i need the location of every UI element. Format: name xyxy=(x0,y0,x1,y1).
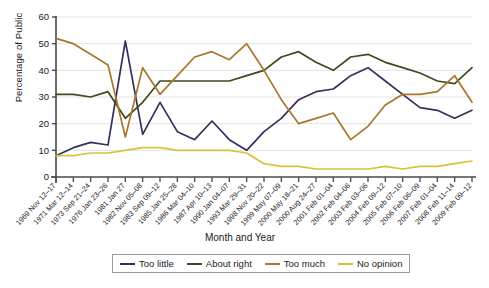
y-axis-tick-label: 20 xyxy=(38,118,49,129)
y-axis-tick-label: 60 xyxy=(38,11,49,22)
legend-item-label: Too little xyxy=(139,259,174,269)
series-line-no-opinion xyxy=(56,148,472,169)
x-axis-title: Month and Year xyxy=(150,232,330,243)
legend-item-label: About right xyxy=(206,259,252,269)
legend-item-label: Too much xyxy=(284,259,325,269)
legend-swatch-icon xyxy=(338,263,353,265)
y-axis-tick-label: 40 xyxy=(38,65,49,76)
chart-plot-area: 01020304050601969 Nov 12–171971 Mar 12–1… xyxy=(0,0,489,234)
legend-item-label: No opinion xyxy=(357,259,402,269)
legend-swatch-icon xyxy=(187,263,202,265)
legend-item[interactable]: Too little xyxy=(120,259,174,269)
legend-swatch-icon xyxy=(265,263,280,265)
legend-item[interactable]: No opinion xyxy=(338,259,402,269)
series-line-too-little xyxy=(56,41,472,156)
legend-item[interactable]: Too much xyxy=(265,259,325,269)
y-axis-tick-label: 10 xyxy=(38,145,49,156)
chart-legend: Too littleAbout rightToo muchNo opinion xyxy=(112,254,410,273)
legend-swatch-icon xyxy=(120,263,135,265)
y-axis-tick-label: 0 xyxy=(44,171,49,182)
chart-container: Percentage of Public 01020304050601969 N… xyxy=(0,0,489,288)
legend-item[interactable]: About right xyxy=(187,259,252,269)
y-axis-tick-label: 50 xyxy=(38,38,49,49)
y-axis-tick-label: 30 xyxy=(38,91,49,102)
series-line-too-much xyxy=(56,38,472,139)
